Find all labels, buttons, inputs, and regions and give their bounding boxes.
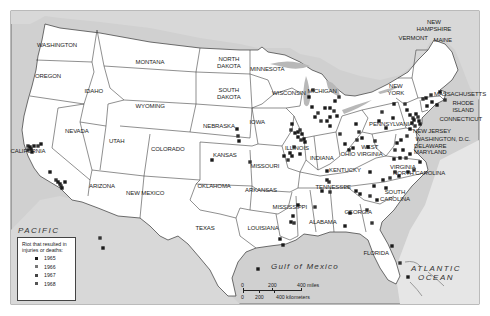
riot-marker (381, 178, 384, 181)
riot-marker (390, 244, 393, 247)
state-label-north-carolina: NORTH CAROLINA (393, 170, 445, 177)
state-label-south-carolina: SOUTH CAROLINA (380, 189, 410, 202)
state-label-iowa: IOWA (250, 119, 265, 126)
marker-square-icon (35, 274, 38, 277)
state-label-kansas: KANSAS (213, 152, 237, 159)
riot-marker (425, 104, 428, 107)
riot-marker (313, 115, 316, 118)
riot-marker (328, 115, 331, 118)
state-label-california: CALIFORNIA (11, 148, 46, 155)
state-label-maine: MAINE (434, 37, 453, 44)
state-label-new-hampshire: NEW HAMPSHIRE (417, 19, 452, 32)
riot-marker (335, 114, 338, 117)
riot-marker (289, 128, 292, 131)
riot-marker (63, 180, 66, 183)
state-label-new-mexico: NEW MEXICO (126, 190, 164, 197)
state-label-alabama: ALABAMA (309, 219, 337, 226)
riot-marker (343, 142, 346, 145)
state-label-new-jersey: NEW JERSEY (413, 128, 451, 135)
state-label-ohio: OHIO (341, 151, 356, 158)
riot-marker (393, 148, 396, 151)
riot-marker (235, 127, 238, 130)
state-label-north-dakota: NORTH DAKOTA (217, 56, 241, 69)
riot-marker (418, 160, 421, 163)
riot-marker (398, 261, 401, 264)
riot-marker (291, 214, 294, 217)
riot-marker (354, 122, 357, 125)
riot-marker (256, 267, 259, 270)
riot-marker (278, 237, 281, 240)
state-label-wisconsin: WISCONSIN (272, 90, 306, 97)
legend: Riot that resulted in injuries or deaths… (17, 237, 76, 301)
riot-marker (290, 122, 293, 125)
riot-marker (429, 93, 432, 96)
riot-marker (332, 109, 335, 112)
riot-marker (408, 127, 411, 130)
riot-marker (328, 106, 331, 109)
riot-marker (296, 135, 299, 138)
state-label-michigan: MICHIGAN (308, 88, 337, 95)
riot-marker (307, 95, 310, 98)
riot-marker (414, 112, 417, 115)
riot-marker (316, 111, 319, 114)
riot-marker (289, 220, 292, 223)
riot-marker (288, 151, 291, 154)
riot-marker (325, 119, 328, 122)
riot-marker (292, 221, 295, 224)
riot-marker (370, 221, 373, 224)
riot-marker (373, 139, 376, 142)
riot-marker (398, 156, 401, 159)
gulf-of-mexico-label: Gulf of Mexico (271, 262, 339, 271)
state-label-west-virginia: WEST VIRGINIA (357, 144, 383, 157)
state-label-pennsylvania: PENNSYLVANIA (369, 121, 413, 128)
riot-marker (358, 192, 361, 195)
riot-marker (388, 176, 391, 179)
riot-marker (435, 103, 438, 106)
riot-marker (443, 98, 446, 101)
riot-marker (313, 205, 316, 208)
state-label-washington-d-c: WASHINGTON, D.C. (416, 136, 471, 143)
riot-marker (328, 124, 331, 127)
riot-marker (290, 154, 293, 157)
riot-marker (351, 146, 354, 149)
riot-marker (333, 99, 336, 102)
state-label-louisiana: LOUISIANA (248, 225, 279, 232)
state-label-nevada: NEVADA (65, 128, 89, 135)
riot-marker (337, 95, 340, 98)
legend-item-1967: 1967 (18, 271, 75, 280)
state-label-arkansas: ARKANSAS (245, 187, 277, 194)
marker-square-icon (35, 257, 38, 260)
riot-marker (39, 142, 42, 145)
riot-marker (60, 186, 63, 189)
state-label-wyoming: WYOMING (136, 103, 165, 110)
state-label-minnesota: MINNESOTA (250, 66, 284, 73)
riot-marker (380, 110, 383, 113)
state-label-maryland: MARYLAND (414, 149, 446, 156)
state-label-tennessee: TENNESSEE (316, 184, 351, 191)
riot-marker (282, 154, 285, 157)
riot-marker (392, 102, 395, 105)
riot-marker (418, 122, 421, 125)
riot-marker (319, 119, 322, 122)
state-label-idaho: IDAHO (85, 88, 104, 95)
state-label-arizona: ARIZONA (89, 183, 115, 190)
riot-marker (405, 108, 408, 111)
riot-marker (403, 102, 406, 105)
riot-marker (424, 96, 427, 99)
state-label-rhode-island: RHODE ISLAND (453, 100, 474, 113)
riot-marker (360, 136, 363, 139)
riot-marker (401, 148, 404, 151)
riot-marker (293, 131, 296, 134)
riot-marker (281, 243, 284, 246)
state-label-kentucky: KENTUCKY (329, 167, 361, 174)
riot-marker (298, 152, 301, 155)
state-label-florida: FLORIDA (364, 250, 389, 257)
state-label-vermont: VERMONT (399, 35, 428, 42)
legend-item-1968: 1968 (18, 280, 75, 289)
state-label-mississippi: MISSISSIPPI (273, 204, 308, 211)
riot-marker (354, 189, 357, 192)
riot-marker (210, 158, 213, 161)
riot-marker (406, 275, 409, 278)
riot-marker (101, 246, 104, 249)
riot-marker (310, 105, 313, 108)
